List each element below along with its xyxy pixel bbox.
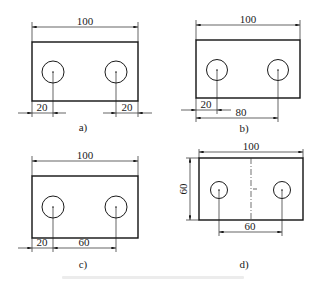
panel-caption: c): [79, 258, 88, 271]
plate-outline: [32, 42, 138, 101]
width-dimension-label: 100: [77, 149, 94, 161]
panel-caption: b): [239, 122, 249, 135]
panel-caption: a): [79, 121, 88, 134]
panel-a: 100 20 20 a): [18, 15, 152, 134]
height-dimension-label: 60: [177, 183, 189, 195]
width-dimension-label: 100: [243, 140, 260, 152]
plate-outline: [196, 40, 300, 98]
width-dimension-label: 100: [77, 15, 94, 27]
right-hole-position-label: 80: [236, 106, 248, 118]
panel-c: 100 20 60 c): [18, 149, 138, 271]
left-hole-offset-label: 20: [37, 101, 49, 113]
hole-spacing-label: 60: [245, 220, 257, 232]
left-hole-offset-label: 20: [201, 98, 213, 110]
plate-outline: [32, 176, 138, 238]
left-hole-offset-label: 20: [37, 236, 49, 248]
faint-figure-caption: [62, 276, 244, 279]
dimensioning-figure: 100 20 20 a) 100: [0, 0, 317, 286]
panel-b: 100 20 80 b): [181, 13, 300, 135]
hole-spacing-label: 60: [79, 236, 91, 248]
panel-d: 100 60 60 d): [177, 140, 303, 271]
right-hole-offset-label: 20: [122, 101, 134, 113]
width-dimension-label: 100: [240, 13, 257, 25]
panel-caption: d): [239, 258, 249, 271]
